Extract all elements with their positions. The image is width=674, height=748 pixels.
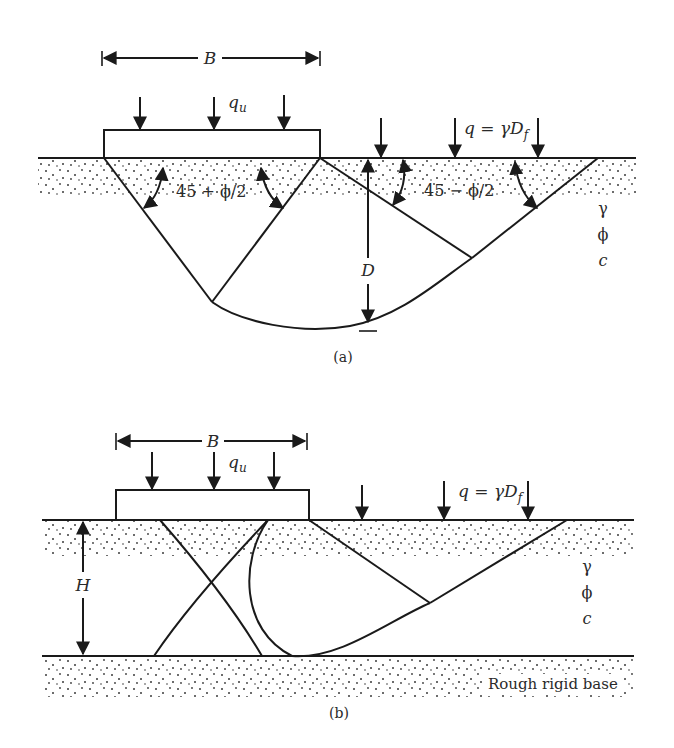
cohesion-label: c <box>599 251 608 270</box>
depth-label: D <box>360 260 375 280</box>
width-dimension-b: B <box>102 48 320 68</box>
unit-weight-label: γ <box>582 557 592 576</box>
footing-load-arrows: qu <box>152 452 274 489</box>
soil-surface-texture <box>42 521 634 556</box>
caption-b: (b) <box>329 705 349 721</box>
surcharge-label: q = γDf <box>464 118 531 142</box>
active-angle-label: 45 + ϕ/2 <box>176 182 246 201</box>
surcharge-arrows: q = γDf <box>381 118 538 157</box>
passive-angle-label: 45 − ϕ/2 <box>424 181 494 200</box>
friction-angle-label: ϕ <box>598 225 609 244</box>
footing <box>116 490 309 520</box>
width-label: B <box>206 431 220 451</box>
footing-load-arrows: qu <box>140 92 284 129</box>
soil-surface-texture <box>38 159 636 197</box>
unit-weight-label: γ <box>598 199 608 218</box>
caption-a: (a) <box>333 349 352 365</box>
base-label: Rough rigid base <box>488 675 618 693</box>
width-label: B <box>203 48 217 68</box>
width-dimension-b: B <box>116 431 307 451</box>
surcharge-arrows: q = γDf <box>362 481 528 519</box>
load-label: qu <box>228 452 247 475</box>
bearing-capacity-diagram: B qu 45 + ϕ/2 <box>0 0 674 748</box>
layer-thickness-label: H <box>75 575 92 595</box>
figure-a: B qu 45 + ϕ/2 <box>38 48 636 365</box>
surcharge-label: q = γDf <box>458 481 525 505</box>
cohesion-label: c <box>583 609 592 628</box>
footing <box>104 130 320 158</box>
load-label: qu <box>228 92 247 115</box>
soil-parameters: γ ϕ c <box>582 557 593 628</box>
figure-b: B qu q = γDf <box>42 431 634 721</box>
soil-parameters: γ ϕ c <box>598 199 609 270</box>
friction-angle-label: ϕ <box>582 583 593 602</box>
